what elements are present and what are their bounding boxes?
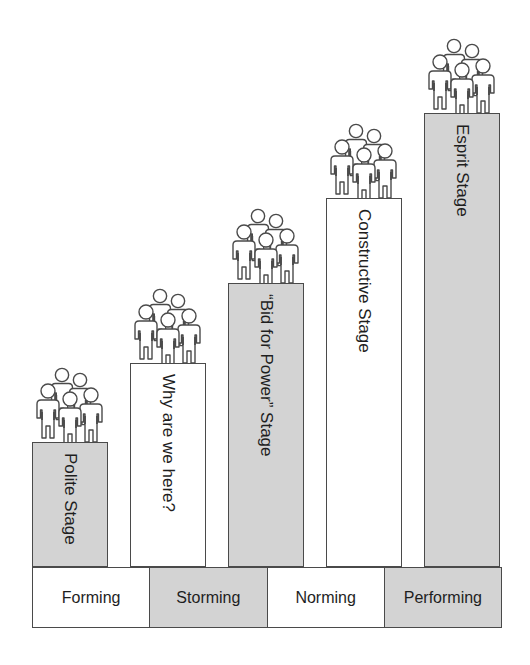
stage-bar-esprit: Esprit Stage [424,113,500,567]
stage-bar-constructive: Constructive Stage [326,198,402,567]
team-development-stages-diagram: Polite Stage [0,0,530,665]
phase-storming: Storming [149,568,266,627]
stage-label: Polite Stage [62,453,79,545]
stage-bar-why-are-we-here: Why are we here? [130,363,206,567]
stage-label: “Bid for Power” Stage [258,294,275,457]
group-of-people-icon [33,366,107,444]
stage-label: Constructive Stage [356,209,373,353]
phase-performing: Performing [384,568,501,627]
stage-bar-bid-for-power: “Bid for Power” Stage [228,283,304,567]
stage-label: Esprit Stage [454,124,471,217]
stage-bar-polite: Polite Stage [32,442,108,567]
group-of-people-icon [425,37,499,115]
phase-norming: Norming [267,568,384,627]
group-of-people-icon [327,122,401,200]
phase-forming: Forming [33,568,149,627]
phase-row: Forming Storming Norming Performing [32,567,502,628]
group-of-people-icon [131,287,205,365]
group-of-people-icon [229,207,303,285]
stage-label: Why are we here? [160,374,177,512]
